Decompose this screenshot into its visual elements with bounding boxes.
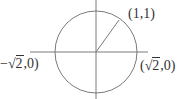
sqrt-symbol: √2 xyxy=(8,57,24,71)
label-suffix: ,0) xyxy=(160,58,175,73)
label-suffix: ,0) xyxy=(24,56,39,71)
radicand: 2 xyxy=(16,55,24,71)
minus-sign: − xyxy=(0,56,8,71)
label-neg-sqrt2: −√2,0) xyxy=(0,57,39,71)
label-pos-sqrt2: (√2,0) xyxy=(140,59,176,73)
circle-diagram xyxy=(0,0,188,99)
radicand: 2 xyxy=(152,57,160,73)
sqrt-symbol: √2 xyxy=(145,59,161,73)
label-point-1-1: (1,1) xyxy=(128,7,155,21)
diagram-canvas: (1,1) −√2,0) (√2,0) xyxy=(0,0,188,99)
radius-line xyxy=(96,20,119,52)
